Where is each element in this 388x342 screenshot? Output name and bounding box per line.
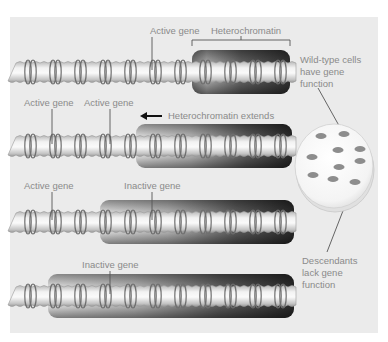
gene-label-text: Inactive gene: [82, 259, 139, 270]
gene-label-text: Active gene: [24, 97, 74, 108]
cell-colony: [307, 154, 318, 160]
gene-label-text: Active gene: [24, 180, 74, 191]
chromatin-row-2: [8, 124, 296, 168]
left-arrow-icon: [140, 112, 147, 120]
wild-type-label-line: function: [300, 78, 333, 89]
cell-colony: [316, 133, 327, 139]
cell-colony: [328, 176, 339, 182]
descendants-label-line: Descendants: [302, 255, 358, 266]
cell-colony: [334, 164, 345, 170]
heterochromatin-bracket: [192, 36, 290, 46]
chromatin-fiber: [8, 286, 296, 307]
wild-type-label: Wild-type cellshave genefunction: [300, 54, 361, 131]
heterochromatin-label-text: Heterochromatin extends: [168, 110, 274, 121]
gene-label-text: Active gene: [150, 25, 200, 36]
cell-colony: [355, 158, 366, 164]
wild-type-label-line: Wild-type cells: [300, 54, 361, 65]
descendants-label-line: function: [302, 279, 335, 290]
heterochromatin-label: Heterochromatin: [192, 25, 290, 46]
gene-label-text: Inactive gene: [124, 180, 181, 191]
cell-colony: [339, 131, 350, 137]
heterochromatin-label-text: Heterochromatin: [211, 25, 281, 36]
gene-label-text: Active gene: [84, 97, 134, 108]
descendants-label-line: lack gene: [302, 267, 343, 278]
chromatin-row-4: [8, 274, 296, 318]
cell-colony: [355, 146, 366, 152]
cell-colony: [308, 172, 319, 178]
heterochromatin-label: Heterochromatin extends: [140, 110, 274, 121]
chromatin-fiber: [8, 136, 296, 157]
cell-colony: [333, 147, 344, 153]
heterochromatin-spreading-diagram: Active geneHeterochromatinActive geneAct…: [0, 0, 388, 342]
petri-dish: [295, 124, 374, 212]
cell-colony: [350, 179, 361, 185]
wild-type-label-line: have gene: [300, 66, 344, 77]
